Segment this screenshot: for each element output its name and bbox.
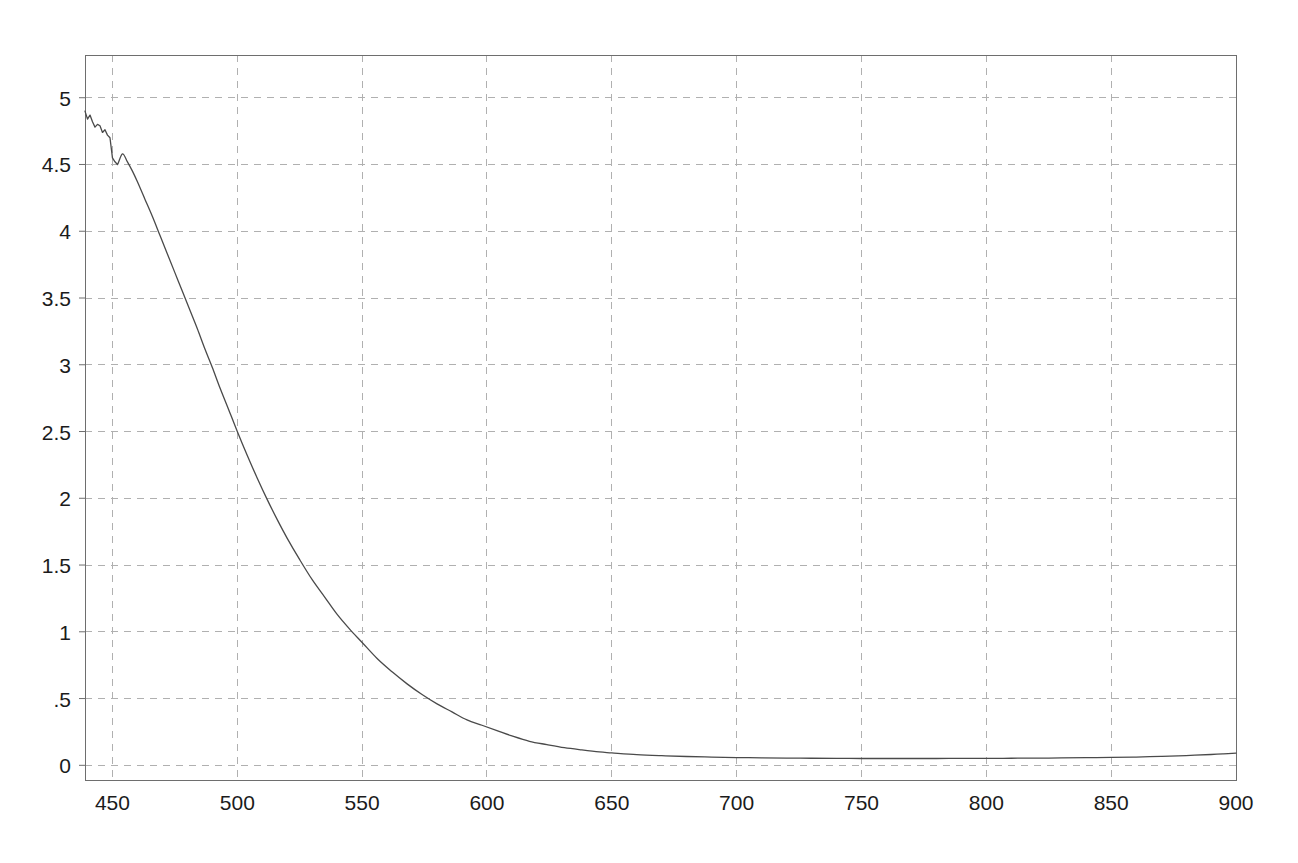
y-axis-tick-label: .5	[0, 688, 71, 709]
y-axis-tick-label: 4	[0, 221, 71, 242]
x-axis-tick-label: 600	[469, 792, 504, 813]
x-axis-tick-label: 500	[220, 792, 255, 813]
x-axis-tick-label: 550	[345, 792, 380, 813]
series-line-spectrum	[85, 111, 1236, 758]
x-axis-tick-label: 450	[95, 792, 130, 813]
y-axis-tick-label: 4.5	[0, 154, 71, 175]
data-series-line	[85, 111, 1236, 758]
y-axis-tick-label: 3	[0, 354, 71, 375]
x-axis-tick-label: 900	[1218, 792, 1253, 813]
x-axis-tick-label: 800	[969, 792, 1004, 813]
y-axis-tick-label: 0	[0, 755, 71, 776]
spectrum-plot	[0, 0, 1298, 863]
x-axis-tick-label: 700	[719, 792, 754, 813]
y-axis-tick-label: 1	[0, 621, 71, 642]
axes-frame	[85, 55, 1236, 780]
x-axis-tick-label: 750	[844, 792, 879, 813]
y-axis-tick-label: 2	[0, 488, 71, 509]
y-axis-tick-label: 2.5	[0, 421, 71, 442]
tick-marks	[79, 98, 1236, 780]
x-axis-tick-label: 650	[594, 792, 629, 813]
y-axis-tick-label: 1.5	[0, 555, 71, 576]
x-axis-tick-label: 850	[1094, 792, 1129, 813]
y-axis-tick-label: 3.5	[0, 288, 71, 309]
y-axis-tick-label: 5	[0, 87, 71, 108]
plot-frame	[85, 55, 1236, 780]
gridlines	[85, 55, 1236, 780]
chart-container: 0.511.522.533.544.55 4505005506006507007…	[0, 0, 1298, 863]
